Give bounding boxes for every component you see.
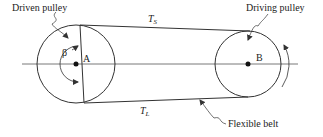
tension-tight-label: TL: [140, 105, 150, 118]
rotation-arrow-icon: [282, 45, 289, 87]
center-a-dot: [74, 62, 79, 67]
tension-slack-label: TS: [148, 13, 158, 26]
center-b-label: B: [256, 52, 263, 63]
flexible-belt-leader: [200, 100, 226, 124]
flexible-belt-label: Flexible belt: [228, 118, 278, 129]
belt-tight-side: [84, 97, 248, 103]
belt-drive-diagram: Driven pulley Driving pulley Flexible be…: [0, 0, 323, 137]
driven-pulley-label: Driven pulley: [12, 2, 67, 13]
center-a-label: A: [83, 53, 91, 64]
driving-pulley-label: Driving pulley: [246, 2, 305, 13]
center-b-dot: [246, 62, 251, 67]
driven-pulley-leader: [52, 12, 68, 38]
angle-beta-label: β: [62, 47, 67, 58]
belt-slack-side: [80, 25, 250, 31]
